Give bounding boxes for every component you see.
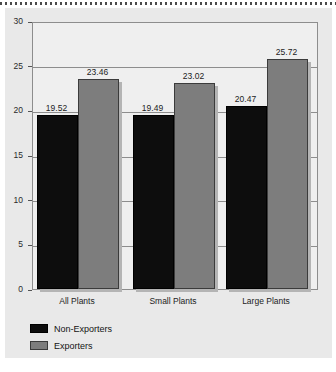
- y-axis-tick-label: 20: [1, 106, 23, 115]
- bar-value-label: 19.49: [133, 103, 173, 113]
- bar-value-label: 23.02: [174, 71, 214, 81]
- legend-swatch-exporters: [30, 341, 48, 350]
- bar-non-exporters-all-plants: [37, 115, 78, 289]
- bar-non-exporters-large-plants: [226, 106, 267, 289]
- chart-page: 051015202530 All PlantsSmall PlantsLarge…: [0, 0, 336, 372]
- y-axis-tick-label: 0: [1, 285, 23, 294]
- y-axis-tick-mark: [28, 200, 32, 201]
- figure-card: 051015202530 All PlantsSmall PlantsLarge…: [5, 8, 332, 358]
- legend-label: Non-Exporters: [54, 324, 112, 334]
- legend-item: Non-Exporters: [30, 322, 112, 335]
- y-axis-tick-mark: [28, 156, 32, 157]
- legend-item: Exporters: [30, 339, 112, 352]
- y-axis-tick-label: 30: [1, 17, 23, 26]
- legend-swatch-non-exporters: [30, 324, 48, 333]
- bar-value-label: 19.52: [37, 103, 77, 113]
- legend-label: Exporters: [54, 341, 93, 351]
- y-axis-tick-label: 5: [1, 240, 23, 249]
- bar-non-exporters-small-plants: [133, 115, 174, 289]
- y-axis-tick-mark: [28, 22, 32, 23]
- y-axis-tick-label: 25: [1, 62, 23, 71]
- bar-exporters-small-plants: [174, 83, 215, 289]
- y-axis-tick-mark: [28, 245, 32, 246]
- y-axis-tick-label: 10: [1, 196, 23, 205]
- bar-value-label: 25.72: [267, 47, 307, 57]
- top-dotted-rule: [0, 2, 336, 5]
- bar-value-label: 20.47: [226, 94, 266, 104]
- x-axis-tick-label: Small Plants: [128, 296, 218, 306]
- chart-legend: Non-ExportersExporters: [30, 322, 112, 356]
- y-axis-tick-label: 15: [1, 151, 23, 160]
- plot-area: [32, 22, 318, 290]
- y-axis-tick-mark: [28, 111, 32, 112]
- y-axis-tick-mark: [28, 290, 32, 291]
- bar-value-label: 23.46: [78, 67, 118, 77]
- x-axis-tick-label: All Plants: [32, 296, 122, 306]
- x-axis-tick-label: Large Plants: [221, 296, 311, 306]
- y-axis-tick-mark: [28, 66, 32, 67]
- bar-exporters-large-plants: [267, 59, 308, 289]
- bar-exporters-all-plants: [78, 79, 119, 289]
